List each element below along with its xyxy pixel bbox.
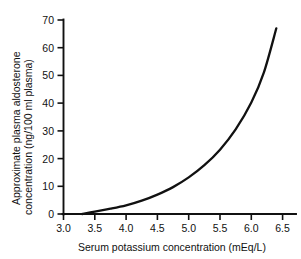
x-tick-label-4-0: 4.0 <box>119 222 134 234</box>
x-tick-label-6-0: 6.0 <box>244 222 259 234</box>
x-axis-tick-labels: 3.0 3.5 4.0 4.5 5.0 5.5 6.0 6.5 <box>56 222 290 234</box>
chart-plot-area: Approximate plasma aldosterone concentra… <box>0 0 301 259</box>
x-tick-label-5-5: 5.5 <box>213 222 228 234</box>
y-tick-label-50: 50 <box>42 69 54 81</box>
y-tick-label-20: 20 <box>42 153 54 165</box>
x-tick-label-3-0: 3.0 <box>56 222 71 234</box>
y-tick-label-0: 0 <box>48 208 54 220</box>
y-axis-tick-labels: 70 60 50 40 30 20 10 0 <box>42 14 54 220</box>
y-axis-title: Approximate plasma aldosterone concentra… <box>10 51 34 215</box>
x-axis-title: Serum potassium concentration (mEq/L) <box>78 241 266 253</box>
y-axis-title-line1: Approximate plasma aldosterone <box>10 51 22 205</box>
aldosterone-potassium-curve <box>82 28 276 214</box>
chart-figure: Approximate plasma aldosterone concentra… <box>0 0 301 259</box>
y-tick-label-10: 10 <box>42 180 54 192</box>
y-tick-label-40: 40 <box>42 97 54 109</box>
y-axis-title-line2: concentration (ng/100 ml plasma) <box>22 59 34 215</box>
x-tick-label-4-5: 4.5 <box>150 222 165 234</box>
x-tick-label-5-0: 5.0 <box>181 222 196 234</box>
y-tick-label-30: 30 <box>42 125 54 137</box>
x-tick-label-6-5: 6.5 <box>275 222 290 234</box>
y-tick-label-70: 70 <box>42 14 54 26</box>
x-tick-label-3-5: 3.5 <box>87 222 102 234</box>
y-tick-label-60: 60 <box>42 42 54 54</box>
